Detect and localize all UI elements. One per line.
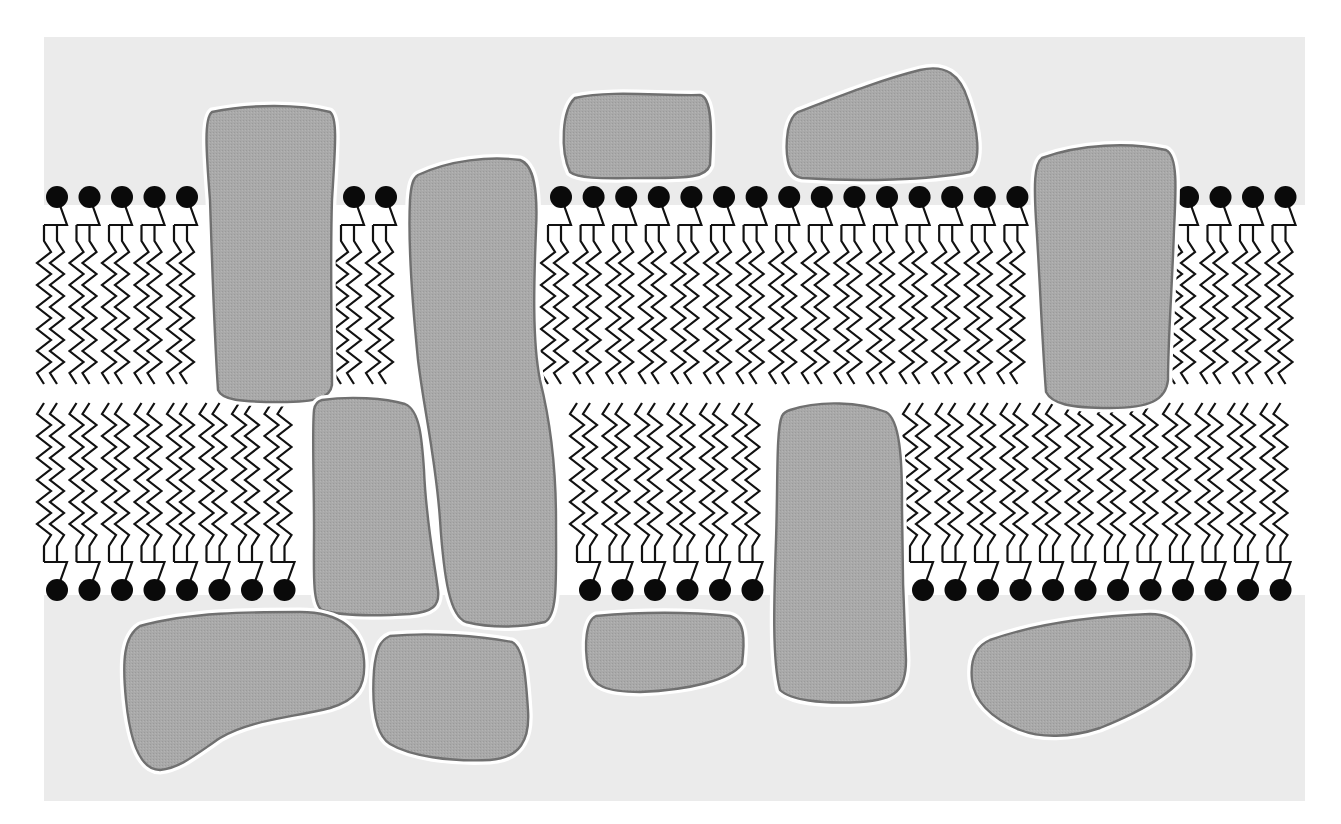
phosphate-head-icon (1210, 186, 1232, 208)
phosphate-head-icon (343, 186, 365, 208)
phosphate-head-icon (144, 579, 166, 601)
phosphate-head-icon (1177, 186, 1199, 208)
phosphate-head-icon (550, 186, 572, 208)
phosphate-head-icon (241, 579, 263, 601)
phosphate-head-icon (648, 186, 670, 208)
phosphate-head-icon (746, 186, 768, 208)
phosphate-head-icon (1270, 579, 1292, 601)
phosphate-head-icon (79, 579, 101, 601)
peripheral-protein-shape (373, 634, 528, 760)
integral-protein-shape (1035, 145, 1176, 408)
phosphate-head-icon (1042, 579, 1064, 601)
phosphate-head-icon (1242, 186, 1264, 208)
phosphate-head-icon (176, 186, 198, 208)
integral-protein-right-upper (1035, 145, 1176, 408)
phosphate-head-icon (644, 579, 666, 601)
phosphate-head-icon (945, 579, 967, 601)
phosphate-head-icon (1107, 579, 1129, 601)
phosphate-head-icon (583, 186, 605, 208)
phosphate-head-icon (612, 579, 634, 601)
phosphate-head-icon (1010, 579, 1032, 601)
phosphate-head-icon (680, 186, 702, 208)
phosphate-head-icon (1140, 579, 1162, 601)
phosphate-head-icon (111, 579, 133, 601)
phosphate-head-icon (1075, 579, 1097, 601)
phosphate-head-icon (579, 579, 601, 601)
peripheral-protein-shape (564, 94, 711, 178)
phosphate-head-icon (876, 186, 898, 208)
phosphate-head-icon (209, 579, 231, 601)
phosphate-head-icon (909, 186, 931, 208)
peripheral-protein-bottom-2 (373, 634, 528, 760)
phosphate-head-icon (274, 579, 296, 601)
integral-protein-upper-left (207, 106, 336, 402)
membrane-diagram: Fluid mosaic model of the cell membrane (0, 0, 1341, 824)
phosphate-head-icon (811, 186, 833, 208)
phosphate-head-icon (742, 579, 764, 601)
phosphate-head-icon (375, 186, 397, 208)
phosphate-head-icon (941, 186, 963, 208)
peripheral-protein-bottom-3 (586, 613, 743, 692)
phosphate-head-icon (912, 579, 934, 601)
phosphate-head-icon (1205, 579, 1227, 601)
membrane-svg (0, 0, 1341, 824)
phosphate-head-icon (778, 186, 800, 208)
integral-protein-center-lower (774, 403, 906, 702)
phosphate-head-icon (677, 579, 699, 601)
phosphate-head-icon (1237, 579, 1259, 601)
phosphate-head-icon (176, 579, 198, 601)
phosphate-head-icon (709, 579, 731, 601)
phosphate-head-icon (615, 186, 637, 208)
phosphate-head-icon (111, 186, 133, 208)
phosphate-head-icon (46, 186, 68, 208)
phosphate-head-icon (1172, 579, 1194, 601)
phosphate-head-icon (713, 186, 735, 208)
integral-protein-shape (207, 106, 336, 402)
integral-protein-lower-left (313, 398, 438, 615)
phosphate-head-icon (79, 186, 101, 208)
phosphate-head-icon (1006, 186, 1028, 208)
phosphate-head-icon (144, 186, 166, 208)
peripheral-protein-top-1 (564, 94, 711, 178)
phosphate-head-icon (46, 579, 68, 601)
integral-protein-shape (774, 403, 906, 702)
phosphate-head-icon (974, 186, 996, 208)
phosphate-head-icon (1275, 186, 1297, 208)
phosphate-head-icon (977, 579, 999, 601)
integral-protein-shape (313, 398, 438, 615)
phosphate-head-icon (843, 186, 865, 208)
